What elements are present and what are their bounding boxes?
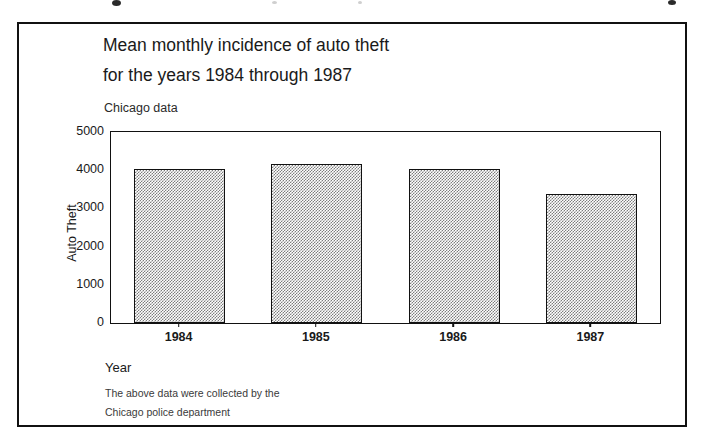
x-axis-tick-label: 1984: [139, 330, 219, 344]
x-axis-tick-mark: [178, 322, 180, 327]
chart-title: Mean monthly incidence of auto theft for…: [103, 30, 563, 90]
scan-artifact-speck: [358, 1, 362, 4]
x-axis-tick-mark: [590, 322, 592, 327]
chart-subtitle: Chicago data: [104, 101, 178, 115]
y-axis-tick-labels: 010002000300040005000: [56, 131, 104, 322]
scan-artifact-dot: [668, 0, 676, 5]
chart-footnote: The above data were collected by the Chi…: [105, 384, 280, 422]
x-axis-tick-mark: [452, 322, 454, 327]
scan-artifact-dot: [112, 0, 121, 6]
x-axis-tick-label: 1985: [276, 330, 356, 344]
bar-series: [111, 132, 660, 323]
x-axis-label: Year: [105, 360, 131, 375]
scan-artifact-speck: [272, 1, 277, 4]
bar: [409, 169, 500, 323]
y-axis-tick-label: 0: [58, 315, 104, 329]
y-axis-label: Auto Theft: [65, 178, 79, 288]
x-axis-tick-label: 1986: [413, 330, 493, 344]
x-axis-ticks: 1984198519861987: [110, 322, 659, 348]
plot-area: [110, 131, 661, 324]
y-axis-tick-label: 4000: [58, 162, 104, 176]
y-axis-tick-label: 5000: [58, 124, 104, 138]
bar: [271, 164, 362, 323]
bar: [546, 194, 637, 323]
x-axis-tick-mark: [315, 322, 317, 327]
x-axis-tick-label: 1987: [550, 330, 630, 344]
bar: [134, 169, 225, 323]
scan-artifacts: [0, 0, 703, 14]
